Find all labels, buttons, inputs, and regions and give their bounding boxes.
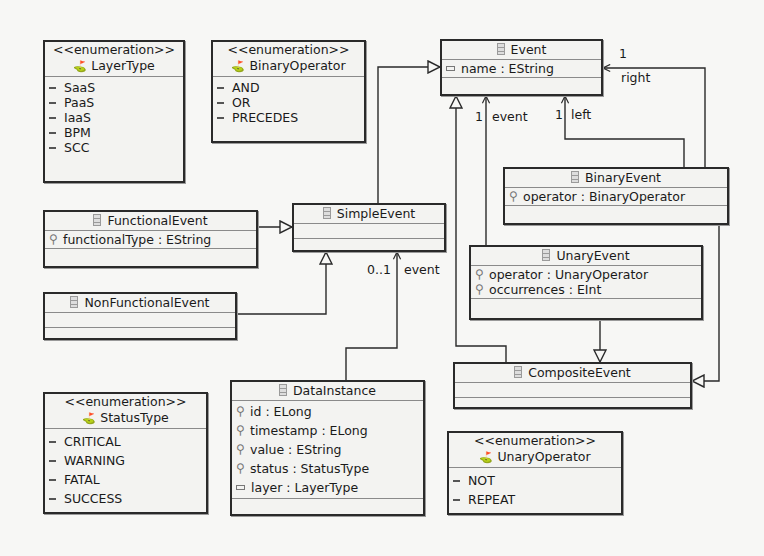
- class-icon: [514, 366, 522, 378]
- enumeration-icon: ⛳: [73, 60, 87, 73]
- enum-name: StatusType: [100, 410, 169, 425]
- enum-literal: SaaS: [49, 80, 179, 95]
- class-name: NonFunctionalEvent: [84, 295, 209, 310]
- class-icon: [323, 207, 331, 219]
- enum-literal: AND: [217, 80, 360, 95]
- literal-icon: [217, 87, 224, 89]
- enum-literal: OR: [217, 95, 360, 110]
- attribute-icon: [236, 485, 245, 490]
- class-name: UnaryEvent: [556, 248, 629, 263]
- binary-right-association: [603, 68, 705, 167]
- class-name: CompositeEvent: [528, 365, 631, 380]
- literal-icon: [217, 102, 224, 104]
- literal-icon: [49, 498, 56, 500]
- enum-binary-operator[interactable]: <<enumeration>> ⛳BinaryOperator AND OR P…: [211, 40, 366, 143]
- class-icon: [542, 249, 550, 261]
- stereotype-label: <<enumeration>>: [213, 42, 364, 57]
- literal-icon: [49, 87, 56, 89]
- literal-icon: [49, 441, 56, 443]
- right-multiplicity: 1: [619, 47, 627, 61]
- class-icon: [93, 214, 101, 226]
- attribute-icon: ⚲: [236, 402, 245, 421]
- class-name: FunctionalEvent: [107, 213, 207, 228]
- enum-name: BinaryOperator: [249, 58, 345, 73]
- attribute-icon: ⚲: [49, 232, 58, 247]
- class-icon: [571, 171, 579, 183]
- class-unary-event[interactable]: UnaryEvent ⚲operator : UnaryOperator ⚲oc…: [469, 245, 703, 320]
- literal-icon: [453, 499, 460, 501]
- enumeration-icon: ⛳: [231, 60, 245, 73]
- stereotype-label: <<enumeration>>: [449, 433, 621, 448]
- attribute-row: ⚲functionalType : EString: [49, 232, 252, 247]
- attribute-icon: ⚲: [509, 189, 518, 204]
- literal-icon: [217, 117, 224, 119]
- enum-literal: NOT: [453, 471, 617, 490]
- literal-icon: [49, 147, 56, 149]
- data-event-multiplicity: 0..1: [367, 263, 391, 277]
- class-diagram: 1 right 1 left 1 event 0..1 event <<enum…: [0, 0, 764, 556]
- literal-icon: [453, 480, 460, 482]
- class-binary-event[interactable]: BinaryEvent ⚲operator : BinaryOperator: [503, 167, 729, 225]
- attribute-icon: ⚲: [475, 282, 484, 297]
- attribute-icon: ⚲: [475, 267, 484, 282]
- enum-literal: CRITICAL: [49, 432, 202, 451]
- right-role: right: [621, 71, 650, 85]
- attribute-row: ⚲id : ELong: [236, 402, 419, 421]
- left-multiplicity: 1: [555, 108, 563, 122]
- enum-literal: SCC: [49, 140, 179, 155]
- class-name: DataInstance: [293, 383, 376, 398]
- enum-name: LayerType: [91, 58, 155, 73]
- class-data-instance[interactable]: DataInstance ⚲id : ELong ⚲timestamp : EL…: [230, 380, 425, 516]
- stereotype-label: <<enumeration>>: [45, 42, 183, 57]
- unary-event-multiplicity: 1: [475, 110, 483, 124]
- literal-icon: [49, 117, 56, 119]
- attribute-icon: ⚲: [236, 440, 245, 459]
- data-event-role: event: [404, 263, 440, 277]
- attribute-icon: ⚲: [236, 459, 245, 478]
- enumeration-icon: ⛳: [479, 451, 493, 464]
- class-event[interactable]: Event name : EString: [440, 39, 603, 96]
- class-functional-event[interactable]: FunctionalEvent ⚲functionalType : EStrin…: [43, 210, 258, 268]
- class-icon: [70, 296, 78, 308]
- composite-to-event-generalization: [456, 96, 506, 362]
- enum-literal: WARNING: [49, 451, 202, 470]
- literal-icon: [49, 132, 56, 134]
- enum-literal: FATAL: [49, 470, 202, 489]
- simple-to-event-generalization: [378, 67, 440, 203]
- literal-icon: [49, 102, 56, 104]
- literal-icon: [49, 479, 56, 481]
- class-icon: [279, 384, 287, 396]
- enumeration-icon: ⛳: [82, 412, 96, 425]
- attribute-row: layer : LayerType: [236, 478, 419, 497]
- enum-status-type[interactable]: <<enumeration>> ⛳StatusType CRITICAL WAR…: [43, 392, 208, 514]
- class-simple-event[interactable]: SimpleEvent: [292, 203, 446, 252]
- attribute-row: ⚲operator : BinaryOperator: [509, 189, 723, 204]
- enum-literal: PaaS: [49, 95, 179, 110]
- unary-event-role: event: [492, 110, 528, 124]
- attribute-row: ⚲status : StatusType: [236, 459, 419, 478]
- class-composite-event[interactable]: CompositeEvent: [453, 362, 692, 409]
- class-name: BinaryEvent: [585, 170, 661, 185]
- enum-literal: SUCCESS: [49, 489, 202, 508]
- attribute-row: ⚲occurrences : EInt: [475, 282, 697, 297]
- class-name: SimpleEvent: [337, 206, 416, 221]
- attribute-row: ⚲operator : UnaryOperator: [475, 267, 697, 282]
- attribute-icon: ⚲: [236, 421, 245, 440]
- enum-literal: IaaS: [49, 110, 179, 125]
- enum-layer-type[interactable]: <<enumeration>> ⛳LayerType SaaS PaaS Iaa…: [43, 40, 185, 183]
- literal-icon: [49, 460, 56, 462]
- enum-unary-operator[interactable]: <<enumeration>> ⛳UnaryOperator NOT REPEA…: [447, 431, 623, 515]
- attribute-icon: [446, 66, 455, 71]
- attribute-row: ⚲value : EString: [236, 440, 419, 459]
- left-role: left: [571, 108, 591, 122]
- stereotype-label: <<enumeration>>: [45, 394, 206, 409]
- attribute-row: name : EString: [446, 61, 597, 76]
- enum-literal: PRECEDES: [217, 110, 360, 125]
- class-icon: [497, 43, 505, 55]
- attribute-row: ⚲timestamp : ELong: [236, 421, 419, 440]
- enum-literal: REPEAT: [453, 490, 617, 509]
- enum-literal: BPM: [49, 125, 179, 140]
- class-non-functional-event[interactable]: NonFunctionalEvent: [43, 292, 237, 340]
- class-name: Event: [511, 42, 547, 57]
- enum-name: UnaryOperator: [497, 449, 590, 464]
